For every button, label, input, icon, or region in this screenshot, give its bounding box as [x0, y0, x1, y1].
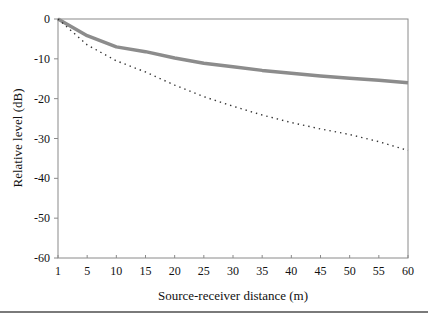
series-group	[58, 19, 408, 150]
y-tick-label: -60	[34, 251, 50, 265]
x-tick-label: 45	[315, 264, 327, 278]
y-tick-label: -50	[34, 211, 50, 225]
y-tick-label: 0	[44, 12, 50, 26]
bottom-rule-divider	[0, 311, 428, 313]
solid-series-line	[58, 19, 408, 83]
x-tick-label: 55	[373, 264, 385, 278]
x-tick-label: 5	[84, 264, 90, 278]
x-tick-label: 25	[198, 264, 210, 278]
y-tick-label: -10	[34, 52, 50, 66]
y-tick-label: -20	[34, 92, 50, 106]
x-tick-label: 20	[169, 264, 181, 278]
x-tick-label: 15	[140, 264, 152, 278]
x-tick-label: 10	[110, 264, 122, 278]
y-tick-label: -30	[34, 132, 50, 146]
y-tick-label: -40	[34, 171, 50, 185]
x-tick-label: 1	[55, 264, 61, 278]
x-tick-label: 60	[402, 264, 414, 278]
line-chart: 0-10-20-30-40-50-60 15101520253035404550…	[0, 0, 428, 317]
x-tick-label: 30	[227, 264, 239, 278]
x-tick-label: 50	[344, 264, 356, 278]
y-axis-title: Relative level (dB)	[10, 89, 25, 188]
x-tick-label: 35	[256, 264, 268, 278]
x-tick-label: 40	[285, 264, 297, 278]
x-axis-title: Source-receiver distance (m)	[158, 288, 308, 303]
y-axis: 0-10-20-30-40-50-60	[34, 12, 58, 265]
dotted-series-line	[58, 19, 408, 150]
plot-frame	[58, 19, 408, 258]
